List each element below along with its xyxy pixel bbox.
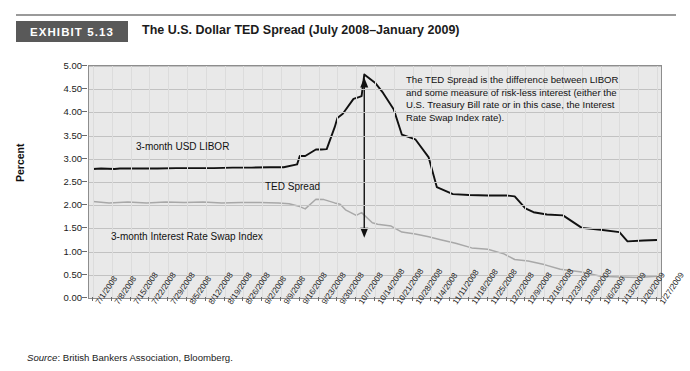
vertical-gridline — [187, 66, 188, 298]
y-tick-mark — [82, 204, 87, 205]
y-tick-label: 4.50 — [22, 83, 82, 94]
series-label-libor: 3-month USD LIBOR — [136, 141, 229, 152]
y-tick-label: 3.50 — [22, 129, 82, 140]
vertical-gridline — [394, 66, 395, 298]
vertical-gridline — [337, 66, 338, 298]
ted-spread-arrow-head-top — [360, 78, 368, 88]
y-tick-label: 2.00 — [22, 199, 82, 210]
vertical-gridline — [657, 66, 658, 298]
y-tick-label: 1.50 — [22, 222, 82, 233]
header-divider — [16, 14, 676, 16]
vertical-gridline — [93, 66, 94, 298]
vertical-gridline — [638, 66, 639, 298]
y-tick-mark — [82, 251, 87, 252]
source-text: : British Bankers Association, Bloomberg… — [57, 352, 232, 363]
vertical-gridline — [206, 66, 207, 298]
exhibit-badge: EXHIBIT 5.13 — [16, 21, 128, 42]
vertical-gridline — [262, 66, 263, 298]
y-tick-label: 2.50 — [22, 176, 82, 187]
ted-spread-annotation: The TED Spread is the difference between… — [406, 74, 628, 125]
y-tick-mark — [82, 88, 87, 89]
y-tick-label: 3.00 — [22, 152, 82, 163]
y-tick-mark — [82, 181, 87, 182]
vertical-gridline — [112, 66, 113, 298]
y-tick-mark — [82, 297, 87, 298]
y-tick-mark — [82, 111, 87, 112]
y-tick-label: 0.00 — [22, 292, 82, 303]
vertical-gridline — [149, 66, 150, 298]
y-tick-mark — [82, 274, 87, 275]
y-tick-mark — [82, 65, 87, 66]
y-tick-mark — [82, 158, 87, 159]
y-tick-label: 4.00 — [22, 106, 82, 117]
y-tick-label: 0.50 — [22, 268, 82, 279]
source-label: Source — [27, 352, 57, 363]
exhibit-figure: EXHIBIT 5.13 The U.S. Dollar TED Spread … — [0, 0, 690, 371]
vertical-gridline — [225, 66, 226, 298]
y-tick-mark — [82, 227, 87, 228]
chart-area: Percent 0.000.501.001.502.002.503.003.50… — [18, 52, 673, 342]
vertical-gridline — [375, 66, 376, 298]
y-tick-label: 1.00 — [22, 245, 82, 256]
series-label-ted-spread: TED Spread — [265, 181, 320, 192]
vertical-gridline — [243, 66, 244, 298]
y-tick-label: 5.00 — [22, 60, 82, 71]
y-tick-mark — [82, 135, 87, 136]
exhibit-title: The U.S. Dollar TED Spread (July 2008–Ja… — [142, 23, 460, 37]
vertical-gridline — [168, 66, 169, 298]
source-line: Source: British Bankers Association, Blo… — [27, 352, 233, 363]
vertical-gridline — [131, 66, 132, 298]
vertical-gridline — [356, 66, 357, 298]
y-axis-ticks: 0.000.501.001.502.002.503.003.504.004.50… — [18, 65, 82, 297]
series-label-swap-index: 3-month Interest Rate Swap Index — [111, 231, 263, 242]
